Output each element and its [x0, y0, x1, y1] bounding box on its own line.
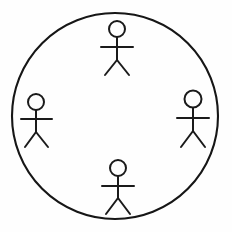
figure-right-leg-right — [193, 131, 205, 147]
boundary-circle — [12, 13, 218, 219]
figure-right-leg-left — [181, 131, 193, 147]
figure-left — [21, 94, 52, 147]
stick-figure-circle-diagram — [0, 0, 232, 232]
figure-left-leg-right — [36, 132, 48, 147]
diagram-canvas — [0, 0, 232, 232]
figure-left-leg-left — [25, 132, 36, 147]
figure-right — [177, 91, 209, 148]
figure-bottom-leg-left — [106, 198, 118, 214]
figure-left-head-icon — [28, 94, 44, 110]
figure-top-leg-right — [117, 60, 129, 75]
figure-right-head-icon — [185, 91, 202, 108]
figure-top-leg-left — [105, 60, 117, 75]
figure-top — [101, 21, 133, 75]
figure-bottom-leg-right — [118, 198, 130, 214]
figure-bottom — [102, 160, 134, 214]
figure-top-head-icon — [109, 21, 125, 37]
figure-bottom-head-icon — [110, 160, 126, 176]
